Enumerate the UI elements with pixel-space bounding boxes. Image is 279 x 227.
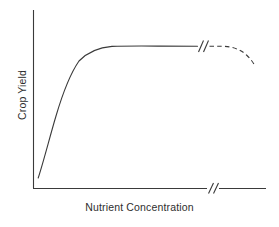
series-crop-yield-solid xyxy=(38,46,197,178)
chart-plot-area xyxy=(0,0,279,227)
crop-yield-nutrient-chart: Crop Yield Nutrient Concentration xyxy=(0,0,279,227)
x-axis-label: Nutrient Concentration xyxy=(0,202,279,213)
curve-break-icon xyxy=(199,41,209,53)
x-axis-break-icon xyxy=(209,183,219,194)
series-excess-decline-dashed xyxy=(210,46,256,66)
y-axis-label-text: Crop Yield xyxy=(17,70,28,120)
